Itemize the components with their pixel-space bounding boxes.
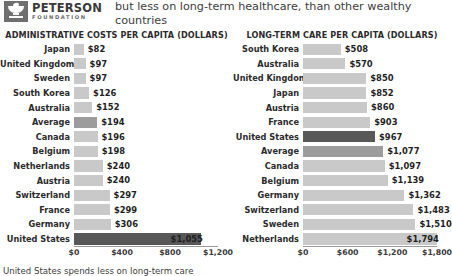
chart-bar-value: $1,097: [389, 159, 421, 174]
chart-row-label: South Korea: [0, 88, 74, 98]
chart-row: United States$967: [233, 130, 451, 145]
chart-bar-value: $306: [115, 217, 138, 232]
chart-bar-area: $1,483: [303, 203, 451, 218]
chart-row: Switzerland$297: [0, 188, 233, 203]
chart-bar: [303, 44, 341, 55]
chart-row: Japan$852: [233, 86, 451, 101]
chart-row: Sweden$97: [0, 71, 233, 86]
chart-bar: [303, 204, 413, 215]
peterson-bowl-logo-icon: [4, 1, 28, 22]
chart-row: Canada$1,097: [233, 159, 451, 174]
logo-base: [9, 16, 23, 18]
chart-row: Belgium$198: [0, 144, 233, 159]
chart-bar: [74, 190, 110, 201]
chart-bar: [303, 117, 370, 128]
chart-axis-tick: $800: [159, 248, 181, 257]
chart-row: Netherlands$1,794: [233, 232, 451, 247]
chart-row-label: United Kingdom: [0, 59, 74, 69]
chart-bar-area: $198: [74, 144, 233, 159]
chart-bar-area: $240: [74, 173, 233, 188]
chart-bar-area: $306: [74, 217, 233, 232]
chart-bar-area: $299: [74, 203, 233, 218]
chart-bar-area: $97: [74, 57, 233, 72]
chart-axis-line: [303, 246, 437, 247]
chart-bar: [303, 160, 385, 171]
chart-bar-area: $1,139: [303, 173, 451, 188]
chart-bar: [303, 175, 388, 186]
chart-bar: [74, 117, 97, 128]
chart-row: South Korea$508: [233, 42, 451, 57]
chart-row-label: Belgium: [0, 146, 74, 156]
chart-row-label: Japan: [233, 88, 303, 98]
footnote-text: United States spends less on long-term c…: [3, 266, 448, 276]
chart-axis-tick: $0: [298, 248, 309, 257]
chart-bar-value: $297: [114, 188, 137, 203]
chart-bar-value: $299: [114, 203, 137, 218]
chart-row: Austria$240: [0, 173, 233, 188]
chart-row: Belgium$1,139: [233, 173, 451, 188]
chart-row: France$299: [0, 203, 233, 218]
chart-bar: [74, 146, 98, 157]
chart-bar: [74, 175, 103, 186]
chart-bar: [74, 73, 86, 84]
chart-bar-area: $196: [74, 130, 233, 145]
chart-bar-area: $1,510: [303, 217, 451, 232]
logo-stem: [13, 13, 19, 15]
chart-row: Canada$196: [0, 130, 233, 145]
chart-bar-value: $97: [90, 71, 107, 86]
chart-bar-area: $194: [74, 115, 233, 130]
chart-title-long-term-care: Long-Term Care per Capita (Dollars): [233, 28, 451, 42]
chart-row-label: Austria: [0, 176, 74, 186]
chart-row-label: United Kingdom: [233, 73, 303, 83]
chart-bar-value: $1,510: [419, 217, 451, 232]
chart-row: Average$1,077: [233, 144, 451, 159]
chart-bar-value: $196: [102, 130, 125, 145]
chart-axis-administrative: $0$400$800$1,200: [0, 246, 233, 262]
chart-row-label: Average: [0, 117, 74, 127]
chart-row: Germany$1,362: [233, 188, 451, 203]
chart-row-label: United States: [233, 132, 303, 142]
chart-bar: [74, 204, 110, 215]
chart-row: United Kingdom$850: [233, 71, 451, 86]
chart-bar-value: $903: [374, 115, 397, 130]
chart-bar-area: $967: [303, 130, 451, 145]
chart-row-label: Switzerland: [233, 205, 303, 215]
chart-bar-area: $1,794: [303, 232, 451, 247]
chart-row: Sweden$1,510: [233, 217, 451, 232]
chart-bar: [74, 87, 89, 98]
chart-bar-area: $297: [74, 188, 233, 203]
chart-bar-value: $1,362: [408, 188, 440, 203]
chart-bar: [74, 58, 86, 69]
chart-bar-area: $570: [303, 57, 451, 72]
chart-bar-value: $852: [370, 86, 393, 101]
chart-bar: [74, 44, 84, 55]
chart-bar: [303, 102, 367, 113]
chart-bar-value: $194: [101, 115, 124, 130]
chart-bar: [74, 131, 98, 142]
chart-bar-value: $1,077: [387, 144, 419, 159]
chart-bar: [303, 73, 366, 84]
chart-row-label: Austria: [233, 103, 303, 113]
chart-bar-value: $850: [370, 71, 393, 86]
chart-row-label: Belgium: [233, 176, 303, 186]
chart-bar: [303, 87, 366, 98]
chart-row: United States$1,055: [0, 232, 233, 247]
chart-row-label: Switzerland: [0, 190, 74, 200]
chart-bar-area: $903: [303, 115, 451, 130]
chart-bar-value: $1,139: [392, 173, 424, 188]
logo-wordmark: PETERSON FOUNDATION: [32, 3, 102, 21]
chart-row: Netherlands$240: [0, 159, 233, 174]
chart-bar-value: $1,794: [407, 232, 439, 247]
chart-row-label: Sweden: [233, 219, 303, 229]
chart-axis-line: [74, 246, 218, 247]
logo-name: PETERSON: [32, 3, 102, 15]
chart-bar-area: $852: [303, 86, 451, 101]
chart-row-label: United States: [0, 234, 74, 244]
chart-axis-tick: $1,200: [377, 248, 407, 257]
chart-bar-value: $1,483: [417, 203, 449, 218]
chart-row: Australia$570: [233, 57, 451, 72]
chart-bar: [303, 58, 345, 69]
chart-rows-long-term-care: South Korea$508Australia$570United Kingd…: [233, 42, 451, 246]
chart-row: United Kingdom$97: [0, 57, 233, 72]
